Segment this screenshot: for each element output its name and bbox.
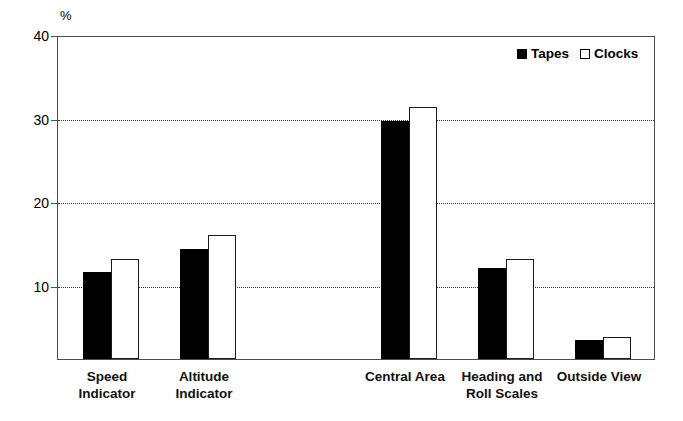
x-label-speed-indicator: Speed Indicator xyxy=(52,368,162,402)
bar-tapes-heading-and-roll-scales xyxy=(478,268,506,359)
open-square-icon xyxy=(580,49,590,59)
y-tick-label-40: 40 xyxy=(15,29,49,43)
legend-entry-tapes: Tapes xyxy=(517,46,569,61)
bar-clocks-heading-and-roll-scales xyxy=(506,259,534,359)
legend: Tapes Clocks xyxy=(517,46,638,61)
bar-tapes-speed-indicator xyxy=(83,272,111,359)
x-label-outside-view: Outside View xyxy=(544,368,654,385)
x-label-central-area: Central Area xyxy=(350,368,460,385)
gridline-20 xyxy=(58,203,654,204)
x-label-heading-and-roll-scales: Heading and Roll Scales xyxy=(447,368,557,402)
legend-entry-clocks: Clocks xyxy=(580,46,638,61)
plot-area: Tapes Clocks xyxy=(57,36,655,360)
legend-label-tapes: Tapes xyxy=(531,46,569,61)
bar-chart: % 40 30 20 10 Tapes xyxy=(0,0,683,421)
legend-label-clocks: Clocks xyxy=(594,46,638,61)
bar-clocks-central-area xyxy=(409,107,437,359)
y-axis-unit-label: % xyxy=(60,9,72,23)
bar-clocks-speed-indicator xyxy=(111,259,139,359)
bar-clocks-altitude-indicator xyxy=(208,235,236,359)
bar-clocks-outside-view xyxy=(603,337,631,359)
bar-tapes-outside-view xyxy=(575,340,603,359)
gridline-30 xyxy=(58,120,654,121)
y-tick-label-30: 30 xyxy=(15,113,49,127)
bar-tapes-altitude-indicator xyxy=(180,249,208,359)
y-tick-label-20: 20 xyxy=(15,196,49,210)
filled-square-icon xyxy=(517,49,527,59)
x-label-altitude-indicator: Altitude Indicator xyxy=(149,368,259,402)
y-tick-label-10: 10 xyxy=(15,280,49,294)
bar-tapes-central-area xyxy=(381,121,409,359)
gridline-10 xyxy=(58,287,654,288)
